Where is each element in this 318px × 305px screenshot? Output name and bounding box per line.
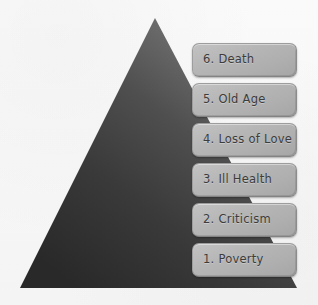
level-box-2[interactable]: 2. Criticism bbox=[192, 203, 297, 237]
level-box-list: 6. Death 5. Old Age 4. Loss of Love 3. I… bbox=[0, 0, 318, 305]
level-box-6[interactable]: 6. Death bbox=[192, 43, 297, 77]
level-label-5: 5. Old Age bbox=[193, 94, 266, 106]
level-box-3[interactable]: 3. Ill Health bbox=[192, 163, 297, 197]
level-label-3: 3. Ill Health bbox=[193, 174, 272, 186]
level-label-1: 1. Poverty bbox=[193, 254, 264, 266]
level-label-4: 4. Loss of Love bbox=[193, 134, 292, 146]
level-label-6: 6. Death bbox=[193, 54, 254, 66]
level-box-5[interactable]: 5. Old Age bbox=[192, 83, 297, 117]
level-label-2: 2. Criticism bbox=[193, 214, 271, 226]
level-box-4[interactable]: 4. Loss of Love bbox=[192, 123, 297, 157]
pyramid-diagram-figure: 6. Death 5. Old Age 4. Loss of Love 3. I… bbox=[0, 0, 318, 305]
level-box-1[interactable]: 1. Poverty bbox=[192, 243, 297, 277]
